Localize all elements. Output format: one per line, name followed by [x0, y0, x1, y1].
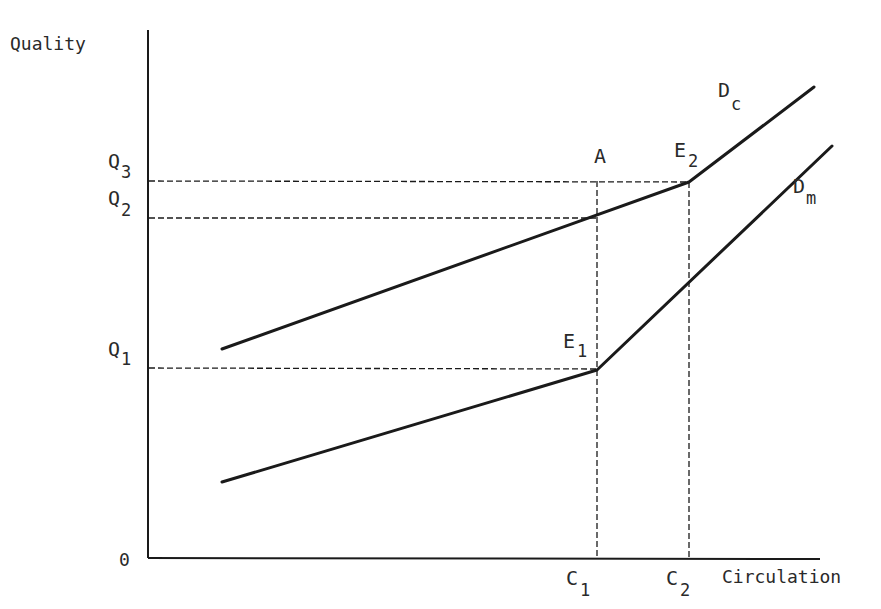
point-e1-label: E 1: [563, 329, 587, 361]
svg-text:1: 1: [121, 349, 131, 369]
svg-text:D: D: [793, 174, 805, 198]
svg-text:m: m: [806, 188, 816, 208]
q3-label: Q 3: [108, 149, 131, 182]
origin-label: 0: [119, 549, 130, 570]
svg-text:2: 2: [680, 580, 690, 600]
svg-text:C: C: [666, 566, 678, 590]
q1-label: Q 1: [108, 337, 131, 369]
svg-text:c: c: [731, 94, 741, 114]
dm-curve: [222, 146, 832, 482]
q2-label: Q 2: [108, 186, 131, 220]
c1-label: C 1: [566, 566, 590, 600]
svg-text:D: D: [718, 78, 730, 102]
point-a-label: A: [594, 144, 606, 168]
svg-text:E: E: [674, 138, 686, 162]
c2-label: C 2: [666, 566, 690, 600]
dm-label: D m: [793, 174, 816, 208]
y-axis-label: Quality: [10, 33, 86, 54]
svg-text:Q: Q: [108, 186, 120, 210]
point-e2-label: E 2: [674, 138, 698, 171]
q3-guide-line: [149, 181, 689, 182]
svg-text:E: E: [563, 329, 575, 353]
svg-text:Q: Q: [108, 337, 120, 361]
svg-text:Q: Q: [108, 149, 120, 173]
svg-text:2: 2: [688, 151, 698, 171]
dc-label: D c: [718, 78, 741, 114]
svg-text:3: 3: [121, 162, 131, 182]
svg-text:1: 1: [577, 341, 587, 361]
quality-circulation-diagram: Quality Circulation 0 Q 3 Q 2 Q 1 C 1 C …: [0, 0, 881, 609]
q1-guide-line: [149, 368, 597, 369]
svg-text:C: C: [566, 566, 578, 590]
x-axis: [148, 558, 820, 559]
svg-text:2: 2: [121, 200, 131, 220]
x-axis-label: Circulation: [722, 566, 841, 587]
svg-text:1: 1: [580, 580, 590, 600]
